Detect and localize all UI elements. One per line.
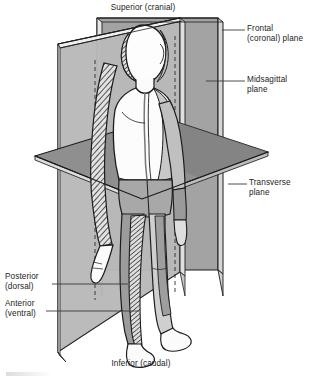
label-transverse-plane-line2: plane xyxy=(249,188,270,198)
label-midsagittal-plane-line2: plane xyxy=(247,85,268,95)
label-posterior-line1: Posterior xyxy=(5,272,39,282)
label-midsagittal-plane-line1: Midsagittal xyxy=(247,75,287,85)
label-inferior: Inferior (caudal) xyxy=(86,359,196,369)
anatomical-planes-figure: Superior (cranial) Frontal (coronal) pla… xyxy=(0,0,322,383)
label-superior: Superior (cranial) xyxy=(73,3,213,13)
cropped-caption-artifact xyxy=(6,372,52,376)
label-anterior-line2: (ventral) xyxy=(5,309,36,319)
label-frontal-plane-line2: (coronal) plane xyxy=(247,34,303,44)
label-posterior-line2: (dorsal) xyxy=(5,282,34,292)
label-anterior-line1: Anterior xyxy=(5,299,34,309)
label-transverse-plane-line1: Transverse xyxy=(249,178,291,188)
planes-diagram-svg xyxy=(0,0,322,383)
label-frontal-plane-line1: Frontal xyxy=(247,24,273,34)
